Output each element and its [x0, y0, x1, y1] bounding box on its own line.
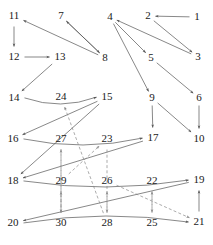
node-label-3: 3 [195, 50, 201, 62]
solid-edges-group [14, 16, 199, 223]
node-label-2: 2 [145, 9, 151, 21]
edge-17-to-18 [23, 141, 143, 178]
edge-9-to-10 [158, 103, 191, 132]
node-label-30: 30 [56, 216, 68, 228]
node-label-21: 21 [194, 215, 205, 227]
edge-3-to-4 [117, 20, 191, 54]
node-label-16: 16 [8, 132, 20, 144]
node-label-4: 4 [107, 10, 113, 22]
node-label-9: 9 [149, 91, 155, 103]
edge-28-to-24 [65, 107, 104, 213]
node-label-1: 1 [194, 10, 200, 22]
node-label-13: 13 [55, 50, 67, 62]
node-label-7: 7 [58, 9, 64, 21]
edge-15-to-16 [23, 101, 98, 134]
node-label-22: 22 [147, 174, 158, 186]
node-label-27: 27 [56, 132, 68, 144]
dashed-edges-group [61, 107, 189, 218]
node-label-29: 29 [56, 174, 68, 186]
edge-2-to-3 [154, 21, 192, 52]
edge-4-to-5 [115, 22, 145, 52]
node-label-20: 20 [8, 216, 20, 228]
node-label-26: 26 [102, 174, 114, 186]
edge-13-to-14 [22, 64, 52, 91]
node-label-6: 6 [196, 91, 202, 103]
node-label-24: 24 [56, 90, 68, 102]
graph-canvas: 1234567891011121314151617181920212223242… [0, 0, 213, 245]
graph-diagram: 1234567891011121314151617181920212223242… [0, 0, 213, 245]
edge-9-to-17 [152, 105, 153, 127]
edge-4-to-9 [113, 24, 148, 92]
node-label-14: 14 [9, 91, 21, 103]
node-label-10: 10 [194, 132, 206, 144]
node-label-11: 11 [9, 9, 20, 21]
edge-1-to-2 [155, 16, 189, 17]
edge-29-to-23 [69, 146, 99, 174]
node-label-15: 15 [102, 90, 114, 102]
node-label-25: 25 [147, 216, 159, 228]
edge-16-to-17 [23, 138, 142, 145]
edge-26-to-21 [117, 185, 190, 217]
node-label-17: 17 [148, 131, 160, 143]
node-label-28: 28 [102, 216, 114, 228]
node-label-19: 19 [194, 173, 206, 185]
edge-5-to-6 [157, 63, 193, 93]
node-label-8: 8 [102, 51, 108, 63]
node-label-12: 12 [9, 50, 20, 62]
node-label-5: 5 [148, 51, 154, 63]
node-label-23: 23 [102, 132, 114, 144]
node-label-18: 18 [8, 174, 20, 186]
